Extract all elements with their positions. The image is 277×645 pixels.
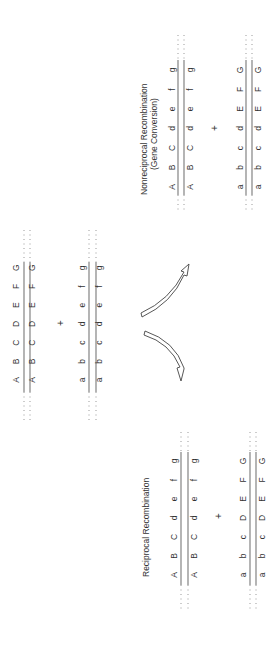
nonreciprocal-title: Nonreciprocal Recombination bbox=[139, 83, 149, 195]
allele-label: A bbox=[11, 377, 21, 383]
allele-label: e bbox=[185, 106, 195, 111]
allele-label: c bbox=[77, 340, 87, 345]
reciprocal-group: Reciprocal Recombination ABCdefg ABCdefg… bbox=[141, 432, 267, 610]
allele-label: e bbox=[77, 303, 87, 308]
parent-plus: + bbox=[55, 320, 66, 326]
allele-label: G bbox=[27, 264, 37, 271]
allele-label: C bbox=[11, 340, 21, 346]
allele-label: d bbox=[185, 126, 195, 131]
allele-label: E bbox=[238, 496, 248, 502]
allele-label: b bbox=[77, 359, 87, 364]
parent-chromosomes: ABCDEFG ABCDEFG + abcdefg abcdefg bbox=[11, 230, 104, 420]
allele-label: d bbox=[253, 126, 263, 131]
allele-row: abcDEFG bbox=[238, 458, 248, 578]
reciprocal-plus: + bbox=[213, 513, 224, 519]
allele-label: F bbox=[235, 87, 245, 92]
allele-label: g bbox=[94, 265, 104, 270]
allele-label: E bbox=[253, 106, 263, 112]
allele-row: ABCDEFG bbox=[27, 264, 37, 382]
allele-label: f bbox=[189, 478, 199, 481]
allele-label: a bbox=[77, 377, 87, 382]
allele-label: C bbox=[185, 145, 195, 151]
allele-label: a bbox=[253, 184, 263, 189]
allele-label: A bbox=[189, 572, 199, 578]
allele-label: F bbox=[11, 284, 21, 289]
allele-label: b bbox=[94, 359, 104, 364]
allele-label: f bbox=[167, 88, 177, 91]
allele-label: F bbox=[253, 87, 263, 92]
allele-row: ABCdefg bbox=[185, 67, 195, 189]
allele-label: G bbox=[235, 67, 245, 74]
allele-label: c bbox=[253, 145, 263, 150]
nonreciprocal-plus: + bbox=[209, 125, 220, 131]
allele-label: b bbox=[238, 553, 248, 558]
allele-label: g bbox=[169, 458, 179, 463]
allele-label: D bbox=[27, 321, 37, 327]
reciprocal-title: Reciprocal Recombination bbox=[141, 478, 151, 577]
allele-label: e bbox=[169, 496, 179, 501]
allele-label: E bbox=[235, 106, 245, 112]
allele-label: G bbox=[238, 458, 248, 465]
allele-label: G bbox=[257, 458, 267, 465]
allele-row: abcdefg bbox=[77, 265, 87, 382]
allele-label: C bbox=[169, 534, 179, 540]
allele-label: e bbox=[94, 303, 104, 308]
allele-row: ABCDEFG bbox=[11, 264, 21, 382]
allele-label: A bbox=[185, 184, 195, 190]
allele-label: e bbox=[189, 496, 199, 501]
allele-label: f bbox=[185, 88, 195, 91]
allele-label: d bbox=[235, 126, 245, 131]
allele-label: D bbox=[238, 515, 248, 521]
allele-label: d bbox=[189, 515, 199, 520]
allele-label: E bbox=[11, 302, 21, 308]
allele-label: B bbox=[169, 553, 179, 559]
allele-label: b bbox=[257, 553, 267, 558]
allele-label: e bbox=[167, 106, 177, 111]
allele-label: c bbox=[238, 534, 248, 539]
allele-label: B bbox=[27, 358, 37, 364]
allele-label: a bbox=[257, 572, 267, 577]
allele-label: C bbox=[189, 534, 199, 540]
allele-label: g bbox=[167, 67, 177, 72]
arrow-to-reciprocal-icon bbox=[144, 331, 184, 381]
allele-label: C bbox=[27, 340, 37, 346]
allele-label: d bbox=[169, 515, 179, 520]
allele-label: f bbox=[77, 285, 87, 288]
allele-label: D bbox=[257, 515, 267, 521]
allele-label: A bbox=[167, 184, 177, 190]
recombination-diagram: ABCDEFG ABCDEFG + abcdefg abcdefg Nonrec… bbox=[0, 0, 277, 645]
allele-label: F bbox=[257, 477, 267, 482]
allele-label: A bbox=[27, 377, 37, 383]
nonreciprocal-group: Nonreciprocal Recombination (Gene Conver… bbox=[139, 35, 263, 212]
allele-label: d bbox=[77, 321, 87, 326]
allele-label: a bbox=[94, 377, 104, 382]
allele-label: D bbox=[11, 321, 21, 327]
allele-label: B bbox=[167, 164, 177, 170]
allele-label: d bbox=[94, 321, 104, 326]
allele-label: a bbox=[238, 572, 248, 577]
allele-label: G bbox=[253, 67, 263, 74]
allele-label: B bbox=[189, 553, 199, 559]
allele-label: b bbox=[235, 165, 245, 170]
allele-row: ABCdefg bbox=[169, 458, 179, 577]
allele-label: A bbox=[169, 572, 179, 578]
allele-label: E bbox=[27, 302, 37, 308]
allele-row: ABCdefg bbox=[167, 67, 177, 189]
allele-row: abcdEFG bbox=[253, 67, 263, 190]
allele-label: B bbox=[11, 358, 21, 364]
allele-label: C bbox=[167, 145, 177, 151]
allele-label: G bbox=[11, 264, 21, 271]
allele-label: a bbox=[235, 184, 245, 189]
allele-row: ABCdefg bbox=[189, 458, 199, 577]
allele-label: c bbox=[235, 145, 245, 150]
arrow-to-nonreciprocal-icon bbox=[141, 264, 189, 317]
allele-row: abcDEFG bbox=[257, 458, 267, 578]
allele-label: b bbox=[253, 165, 263, 170]
allele-label: f bbox=[169, 478, 179, 481]
allele-label: F bbox=[238, 477, 248, 482]
allele-label: g bbox=[189, 458, 199, 463]
allele-label: F bbox=[27, 284, 37, 289]
allele-label: d bbox=[167, 126, 177, 131]
allele-label: g bbox=[77, 265, 87, 270]
allele-row: abcdEFG bbox=[235, 67, 245, 190]
